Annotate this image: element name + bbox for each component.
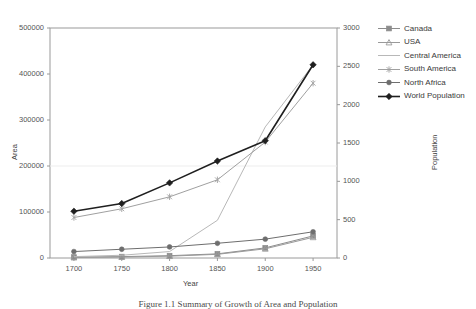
legend-swatch [378, 77, 400, 88]
legend-item-canada[interactable]: Canada [378, 22, 474, 36]
y-axis-left-tick-label: 400000 [0, 69, 44, 78]
data-point-marker [387, 80, 392, 85]
legend-item-central-america[interactable]: Central America [378, 49, 474, 63]
data-point-marker [311, 229, 316, 234]
legend-label: World Population [404, 91, 465, 101]
x-axis-tick-label: 1800 [158, 264, 182, 273]
legend-swatch [378, 37, 400, 48]
series-line [74, 236, 313, 257]
series-central-america [74, 65, 313, 257]
data-point-marker [166, 180, 172, 186]
y-axis-right-tick-label: 1000 [343, 176, 360, 185]
x-axis-tick-label: 1750 [110, 264, 134, 273]
y-axis-left-tick-label: 300000 [0, 115, 44, 124]
x-axis-title: Year [183, 279, 198, 288]
legend-swatch [378, 23, 400, 34]
data-point-marker [214, 158, 220, 164]
data-point-marker [215, 241, 220, 246]
y-axis-right-tick-label: 3000 [343, 23, 360, 32]
legend-label: South America [404, 64, 456, 74]
y-axis-left-title: Area [10, 144, 19, 160]
data-point-marker [387, 26, 392, 31]
x-axis-tick-label: 1950 [301, 264, 325, 273]
data-point-marker [71, 208, 77, 214]
legend-item-south-america[interactable]: South America [378, 63, 474, 77]
x-axis-tick-label: 1900 [253, 264, 277, 273]
y-axis-right-tick-label: 1500 [343, 138, 360, 147]
y-axis-right-tick-label: 2500 [343, 61, 360, 70]
series-line [74, 65, 313, 257]
series-world-population [71, 62, 317, 215]
series-south-america [72, 80, 316, 221]
y-axis-right-tick-label: 0 [343, 253, 347, 262]
series-line [74, 83, 313, 217]
data-point-marker [119, 200, 125, 206]
y-axis-right-tick-label: 500 [343, 215, 356, 224]
legend-label: USA [404, 37, 420, 47]
figure-caption: Figure 1.1 Summary of Growth of Area and… [0, 299, 476, 309]
x-axis-tick-label: 1700 [62, 264, 86, 273]
plot-frame [50, 28, 337, 258]
y-axis-right-tick-label: 2000 [343, 100, 360, 109]
legend-swatch [378, 50, 400, 61]
legend-label: Canada [404, 24, 432, 34]
series-line [74, 65, 313, 211]
legend-swatch [378, 64, 400, 75]
chart-legend: CanadaUSACentral AmericaSouth AmericaNor… [378, 22, 474, 103]
y-axis-left-tick-label: 100000 [0, 207, 44, 216]
legend-label: North Africa [404, 78, 446, 88]
y-axis-left-tick-label: 200000 [0, 161, 44, 170]
legend-item-north-africa[interactable]: North Africa [378, 76, 474, 90]
series-line [74, 232, 313, 252]
legend-swatch [378, 91, 400, 102]
legend-item-world-population[interactable]: World Population [378, 90, 474, 104]
legend-item-usa[interactable]: USA [378, 36, 474, 50]
data-point-marker [386, 93, 392, 99]
data-point-marker [167, 245, 172, 250]
series-north-africa [72, 229, 316, 254]
data-point-marker [72, 249, 77, 254]
data-point-marker [119, 247, 124, 252]
legend-label: Central America [404, 51, 461, 61]
y-axis-left-tick-label: 0 [0, 253, 44, 262]
y-axis-right-title: Population [430, 135, 439, 170]
data-point-marker [263, 237, 268, 242]
y-axis-left-tick-label: 500000 [0, 23, 44, 32]
x-axis-tick-label: 1850 [205, 264, 229, 273]
